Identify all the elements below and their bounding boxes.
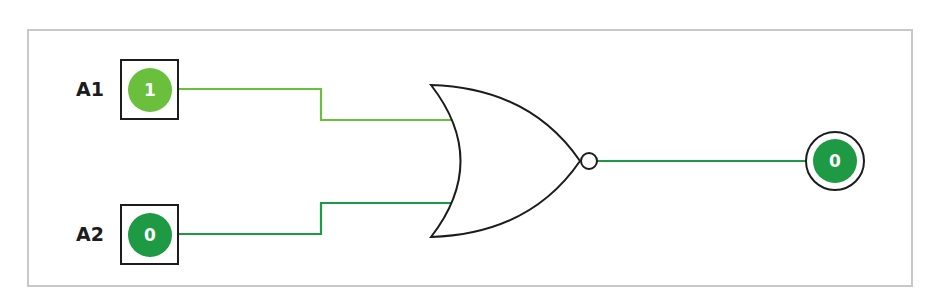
wire-a1 [172, 89, 462, 120]
input-switch-a1[interactable]: 1 [121, 60, 178, 119]
logic-diagram: 1 0 0 [0, 0, 934, 299]
nor-gate-icon [431, 85, 580, 237]
input-value-a2: 0 [144, 225, 156, 245]
inverter-bubble [581, 153, 597, 169]
input-value-a1: 1 [144, 80, 156, 100]
input-switch-a2[interactable]: 0 [121, 205, 178, 264]
wire-a2 [172, 203, 462, 234]
output-lamp: 0 [806, 132, 864, 190]
output-value: 0 [829, 151, 841, 171]
